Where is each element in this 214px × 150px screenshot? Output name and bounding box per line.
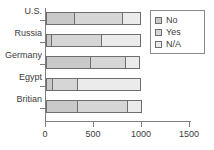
bar-segment-na	[127, 100, 142, 113]
stacked-bar	[46, 56, 142, 69]
stacked-bar-chart: U.S. Russia Germany Egypt Britian 050010…	[0, 0, 214, 150]
legend-swatch-icon	[155, 41, 162, 48]
bar-segment-yes	[51, 34, 102, 47]
y-category-label: Russia	[0, 28, 42, 38]
legend-item-label: N/A	[166, 39, 181, 49]
x-axis-tick	[189, 122, 190, 127]
legend-item-yes[interactable]: Yes	[155, 26, 201, 38]
x-axis-line	[45, 121, 191, 122]
x-axis-tick	[141, 122, 142, 127]
legend-swatch-icon	[155, 29, 162, 36]
bar-segment-na	[101, 34, 141, 47]
legend-item-na[interactable]: N/A	[155, 38, 201, 50]
x-axis-tick-label: 1500	[169, 129, 209, 140]
bar-row	[46, 56, 190, 69]
legend-item-label: Yes	[166, 27, 181, 37]
bar-segment-no	[46, 100, 78, 113]
x-axis-tick-label: 0	[25, 129, 65, 140]
bar-row	[46, 78, 190, 91]
bar-segment-yes	[77, 100, 128, 113]
legend: No Yes N/A	[150, 10, 205, 54]
bar-row	[46, 100, 190, 113]
bar-segment-na	[122, 12, 141, 25]
y-category-label: Britian	[0, 94, 42, 104]
stacked-bar	[46, 34, 143, 47]
x-axis-tick	[93, 122, 94, 127]
bar-segment-na	[77, 78, 141, 91]
x-axis-tick	[45, 122, 46, 127]
stacked-bar	[46, 100, 144, 113]
y-category-label: Germany	[0, 50, 42, 60]
bar-segment-yes	[74, 12, 123, 25]
bar-segment-no	[46, 56, 91, 69]
x-axis-tick-label: 1000	[121, 129, 161, 140]
y-category-label: Egypt	[0, 72, 42, 82]
bar-segment-no	[46, 12, 75, 25]
stacked-bar	[46, 78, 143, 91]
y-category-label: U.S.	[0, 6, 42, 16]
x-axis-tick-label: 500	[73, 129, 113, 140]
bar-segment-na	[125, 56, 140, 69]
bar-segment-yes	[90, 56, 126, 69]
bar-segment-yes	[52, 78, 78, 91]
legend-item-label: No	[166, 15, 178, 25]
stacked-bar	[46, 12, 143, 25]
legend-swatch-icon	[155, 17, 162, 24]
legend-item-no[interactable]: No	[155, 14, 201, 26]
